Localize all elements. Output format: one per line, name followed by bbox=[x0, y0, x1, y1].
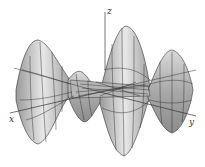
x-axis-label: x bbox=[9, 115, 14, 124]
y-axis-label: y bbox=[189, 118, 194, 127]
z-axis-label: z bbox=[107, 7, 112, 16]
surface-right-lobe bbox=[148, 50, 193, 133]
surface-plot bbox=[0, 0, 205, 167]
